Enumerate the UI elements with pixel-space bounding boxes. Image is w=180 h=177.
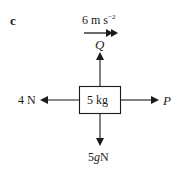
force-left-label: 4 N [18, 94, 36, 106]
mass-label: 5 kg [87, 94, 108, 106]
force-up-label: Q [95, 38, 104, 51]
acceleration-value: 6 m s [82, 13, 108, 27]
force-right-label: P [163, 94, 171, 107]
weight-unit: N [100, 150, 109, 164]
acceleration-exponent: −2 [108, 13, 115, 21]
acceleration-label: 6 m s−2 [82, 14, 115, 26]
force-diagram: c 6 m s−2 Q 5 kg 4 N P 5gN [0, 0, 180, 177]
part-label: c [10, 14, 16, 27]
force-down-label: 5gN [88, 151, 109, 163]
